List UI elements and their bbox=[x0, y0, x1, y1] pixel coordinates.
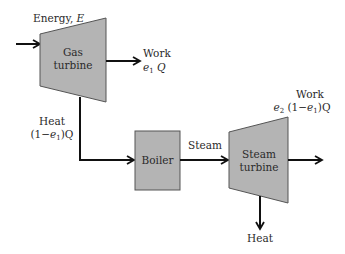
steam-label: Steam bbox=[188, 139, 222, 151]
cogeneration-diagram: Energy, E Gas turbine Work e1 Q Heat (1−… bbox=[0, 0, 345, 254]
steam-turbine-label-1: Steam bbox=[242, 148, 276, 160]
steam-turbine-label-2: turbine bbox=[239, 161, 278, 173]
work2-title: Work bbox=[296, 88, 324, 100]
steam-turbine-block bbox=[229, 117, 288, 203]
heat1-title: Heat bbox=[39, 115, 66, 127]
heat-to-boiler-arrow bbox=[80, 97, 134, 160]
work1-title: Work bbox=[143, 47, 171, 59]
gas-turbine-label-2: turbine bbox=[53, 59, 92, 71]
heat2-label: Heat bbox=[247, 232, 274, 244]
heat1-expr: (1−e1)Q bbox=[31, 128, 74, 142]
gas-turbine-label-1: Gas bbox=[63, 46, 83, 58]
boiler-label: Boiler bbox=[142, 154, 175, 166]
work1-expr: e1 Q bbox=[143, 61, 166, 75]
energy-label: Energy, E bbox=[33, 12, 85, 24]
work2-expr: e2 (1−e1)Q bbox=[273, 101, 330, 115]
